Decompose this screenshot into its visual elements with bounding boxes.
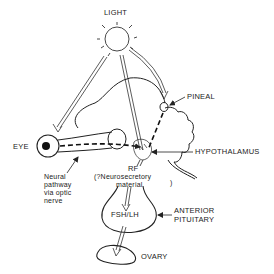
label-light: LIGHT bbox=[104, 9, 127, 17]
neural-label-pointer bbox=[67, 157, 78, 173]
label-neurosecretory-close: ) bbox=[170, 179, 173, 186]
eye-icon bbox=[37, 135, 59, 157]
light-to-hypothalamus-arrow bbox=[120, 55, 143, 150]
label-pineal: PINEAL bbox=[187, 93, 215, 101]
label-fsh-lh: FSH/LH bbox=[111, 211, 139, 219]
label-anterior: ANTERIOR bbox=[174, 207, 214, 215]
neural-pathway-dashed bbox=[60, 144, 140, 147]
label-hypothalamus: HYPOTHALAMUS bbox=[195, 148, 260, 156]
label-neural-line1: Neural bbox=[44, 173, 66, 180]
light-to-pineal-arrow bbox=[129, 48, 168, 99]
label-pituitary: PITUITARY bbox=[174, 216, 214, 224]
label-neurosecretory-line2: material bbox=[116, 181, 143, 188]
pineal-pointer bbox=[170, 97, 185, 105]
label-neural-line4: nerve bbox=[44, 197, 63, 204]
hypothalamus-region bbox=[133, 139, 151, 160]
diagram-canvas bbox=[0, 0, 274, 274]
rf-to-pituitary-arrow bbox=[122, 187, 131, 211]
label-ovary: OVARY bbox=[141, 253, 168, 261]
label-neurosecretory-line1: (?Neurosecretory bbox=[94, 173, 151, 180]
label-neural-line3: via optic bbox=[44, 189, 71, 196]
sun-icon bbox=[97, 22, 137, 56]
light-to-eye-arrow bbox=[53, 56, 107, 132]
optic-nerve bbox=[58, 129, 126, 152]
label-neural-line2: pathway bbox=[44, 181, 71, 188]
label-eye: EYE bbox=[13, 143, 29, 151]
label-rf: RF bbox=[128, 165, 138, 173]
